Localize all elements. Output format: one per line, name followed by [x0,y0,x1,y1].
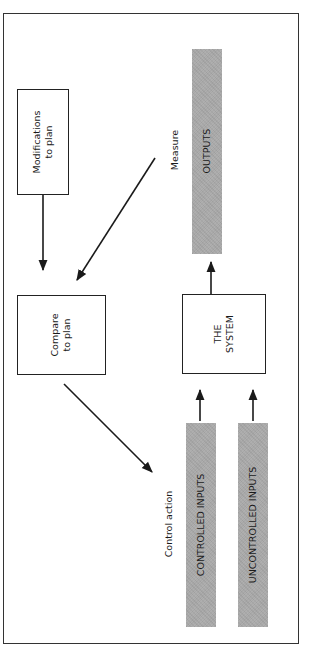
arrows-layer [0,0,311,658]
control-action-arrow [64,384,152,472]
measure-arrow [77,158,155,280]
